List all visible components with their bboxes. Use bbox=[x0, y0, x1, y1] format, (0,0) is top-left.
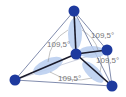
tetrahedral-molecule-diagram: 109,5° 109,5° 109,5° 109,5° bbox=[0, 0, 126, 97]
atom-bottom-right bbox=[107, 81, 118, 92]
angle-label-2: 109,5° bbox=[91, 31, 114, 40]
atom-bottom-left bbox=[10, 75, 21, 86]
atom-center bbox=[71, 49, 82, 60]
angle-label-3: 109,5° bbox=[96, 56, 119, 65]
atom-right bbox=[102, 45, 113, 56]
atom-top bbox=[69, 6, 80, 17]
angle-label-4: 109,5° bbox=[58, 74, 81, 83]
angle-label-1: 109,5° bbox=[47, 40, 70, 49]
